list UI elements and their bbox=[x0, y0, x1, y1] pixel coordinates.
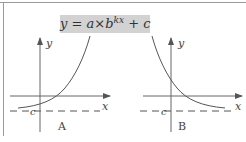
graph-a-curve bbox=[18, 36, 90, 108]
graph-b-x-label: x bbox=[235, 100, 242, 113]
graph-b-y-label: y bbox=[177, 37, 185, 50]
graph-b-curve bbox=[152, 36, 225, 108]
graph-b-c-label: c bbox=[161, 106, 167, 117]
graph-a-c-label: c bbox=[30, 106, 36, 117]
graph-a-label: A bbox=[57, 120, 67, 133]
graph-a-y-label: y bbox=[45, 37, 53, 50]
graph-b: y x c B bbox=[140, 36, 242, 133]
graph-a: y x c A bbox=[10, 36, 110, 133]
graph-b-label: B bbox=[178, 120, 186, 133]
graphs-canvas: y x c A y x c B bbox=[0, 0, 246, 142]
graph-a-x-label: x bbox=[102, 100, 109, 113]
